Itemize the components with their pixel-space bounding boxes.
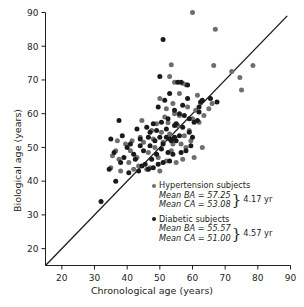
data-point [154,128,159,133]
data-point [213,27,218,32]
x-tick-label-30: 30 [89,273,101,283]
data-point [166,116,171,121]
data-point [200,98,205,103]
scatter-chart-figure: 20304050607080902030405060708090 Biologi… [0,0,304,307]
data-point [190,10,195,15]
data-point [161,160,166,165]
data-point [170,101,175,106]
data-point [197,104,202,109]
data-point [161,142,166,147]
data-point [138,143,143,148]
data-point [215,99,220,104]
data-point [138,137,143,142]
data-point [179,150,184,155]
data-point [167,158,172,163]
data-point [117,118,122,123]
legend-marker-hypertension-icon [152,184,156,188]
legend-diabetic-stats: Mean BA = 55.57 Mean CA = 51.00 } 4.57 y… [159,224,272,243]
data-point [118,160,123,165]
data-point [107,167,112,172]
data-point [172,123,177,128]
data-point [157,169,162,174]
data-point [161,37,166,42]
data-point [188,143,193,148]
data-point [139,118,144,123]
data-point [174,138,179,143]
y-axis-title: Biological age (years) [12,109,23,212]
data-point [180,103,185,108]
data-point [164,106,169,111]
data-point [185,96,190,101]
data-point [177,133,182,138]
legend-diabetic-brace-icon: } [232,228,242,240]
data-point [208,96,213,101]
data-point [167,74,172,79]
data-point [180,125,185,130]
data-point [113,179,118,184]
data-point [157,96,162,101]
data-point [195,118,200,123]
data-point [172,108,177,113]
data-point [118,169,123,174]
legend-entry-hypertension: Hypertension subjects Mean BA = 57.25 Me… [152,181,272,210]
data-point [112,150,117,155]
x-tick-label-40: 40 [121,273,133,283]
legend-hypertension-stats: Mean BA = 57.25 Mean CA = 53.08 } 4.17 y… [159,191,272,210]
y-tick-label-30: 30 [27,210,39,220]
y-tick-label-20: 20 [27,244,39,254]
legend-hypertension-mean-ca: Mean CA = 53.08 [159,200,231,210]
data-point [187,116,192,121]
data-point [141,148,146,153]
data-point [206,106,211,111]
data-point [179,80,184,85]
data-point [179,142,184,147]
data-point [183,148,188,153]
data-point [156,162,161,167]
data-point [201,113,206,118]
data-point [115,138,120,143]
data-point [180,157,185,162]
data-point [162,98,167,103]
data-point [159,147,164,152]
y-tick-label-50: 50 [27,143,39,153]
legend-entry-diabetic: Diabetic subjects Mean BA = 55.57 Mean C… [152,215,272,244]
data-point [146,135,151,140]
data-point [126,170,131,175]
data-point [192,155,197,160]
data-point [156,104,161,109]
data-point [131,152,136,157]
data-point [134,126,139,131]
data-point [195,93,200,98]
data-point [197,110,202,115]
chart-legend: Hypertension subjects Mean BA = 57.25 Me… [152,181,272,248]
data-point [125,145,130,150]
data-point [229,69,234,74]
series-hypertension [108,10,255,174]
data-point [182,133,187,138]
data-point [159,130,164,135]
data-point [121,155,126,160]
data-point [146,167,151,172]
data-point [144,125,149,130]
data-point [133,157,138,162]
data-point [169,62,174,67]
data-point [185,104,190,109]
data-point [210,101,215,106]
x-tick-label-60: 60 [187,273,199,283]
data-point [167,91,172,96]
legend-diabetic-delta: 4.57 yr [243,229,272,239]
data-point [151,121,156,126]
data-point [143,162,148,167]
x-axis-title: Chronological age (years) [0,285,304,296]
data-point [126,160,131,165]
data-point [131,167,136,172]
data-point [99,199,104,204]
data-point [190,135,195,140]
data-point [200,145,205,150]
data-point [152,145,157,150]
data-point [148,130,153,135]
data-point [166,150,171,155]
data-point [177,91,182,96]
data-point [164,126,169,131]
data-point [250,63,255,68]
